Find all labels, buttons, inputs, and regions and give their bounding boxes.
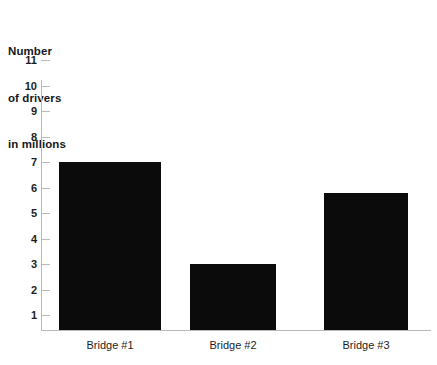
bar	[324, 193, 408, 330]
y-axis-tick-label: 5	[13, 205, 37, 221]
y-axis-tick-label: 6	[13, 180, 37, 196]
y-axis-tick-mark	[41, 86, 50, 87]
y-axis-tick: 5	[0, 213, 50, 214]
y-axis-tick: 2	[0, 290, 50, 291]
y-axis-tick-mark	[41, 290, 50, 291]
y-axis-tick-label: 9	[13, 103, 37, 119]
y-axis-tick-mark	[41, 188, 50, 189]
y-axis-tick-mark	[41, 162, 50, 163]
y-axis-tick-mark	[41, 239, 50, 240]
y-axis-tick-label: 1	[13, 307, 37, 323]
x-axis-category-label: Bridge #2	[173, 337, 293, 353]
y-axis-tick: 10	[0, 86, 50, 87]
y-axis-tick-mark	[41, 213, 50, 214]
bar	[190, 264, 276, 330]
x-axis-category-label: Bridge #3	[306, 337, 426, 353]
y-axis-line	[41, 80, 42, 330]
y-axis-tick-label: 4	[13, 231, 37, 247]
y-axis-tick-label: 10	[13, 78, 37, 94]
y-axis-tick: 3	[0, 264, 50, 265]
bar	[59, 162, 161, 330]
y-axis-tick-label: 8	[13, 129, 37, 145]
y-axis-tick-mark	[41, 137, 50, 138]
y-axis-tick: 11	[0, 60, 50, 61]
y-axis-tick: 4	[0, 239, 50, 240]
x-axis-category-label: Bridge #1	[50, 337, 170, 353]
y-axis-tick-label: 7	[13, 154, 37, 170]
y-axis-tick: 6	[0, 188, 50, 189]
y-axis-tick-label: 2	[13, 282, 37, 298]
y-axis-tick-label: 11	[13, 52, 37, 68]
y-axis-tick-mark	[41, 60, 50, 61]
bar-chart-plot-area: 1110987654321 Bridge #1Bridge #2Bridge #…	[0, 0, 437, 365]
y-axis-tick-mark	[41, 111, 50, 112]
y-axis-tick: 7	[0, 162, 50, 163]
y-axis-tick-label: 3	[13, 256, 37, 272]
y-axis-tick-mark	[41, 315, 50, 316]
y-axis-tick: 8	[0, 137, 50, 138]
y-axis-tick: 9	[0, 111, 50, 112]
x-axis-line	[41, 330, 431, 331]
y-axis-tick-mark	[41, 264, 50, 265]
y-axis-tick: 1	[0, 315, 50, 316]
